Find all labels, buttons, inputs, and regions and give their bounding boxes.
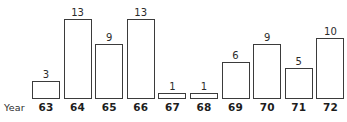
bar — [316, 38, 344, 100]
bar — [222, 62, 250, 99]
x-tick-label: 72 — [316, 101, 344, 113]
bar-value-label: 9 — [253, 32, 281, 43]
bar-group: 13 — [127, 19, 155, 99]
x-axis-title: Year — [4, 102, 25, 113]
bar — [32, 81, 60, 99]
bar-value-label: 9 — [95, 32, 123, 43]
bar-group: 1 — [190, 93, 218, 99]
bar — [190, 93, 218, 99]
plot-area: 363136496513661671686699705711072 — [0, 0, 347, 122]
bar — [158, 93, 186, 99]
bar-value-label: 13 — [64, 7, 92, 18]
x-tick-label: 69 — [222, 101, 250, 113]
bar — [64, 19, 92, 99]
bar-chart: 363136496513661671686699705711072 Year — [0, 0, 347, 122]
bar — [95, 44, 123, 99]
bar-group: 13 — [64, 19, 92, 99]
bar — [127, 19, 155, 99]
bar-value-label: 13 — [127, 7, 155, 18]
bar-value-label: 5 — [285, 56, 313, 67]
bar-value-label: 3 — [32, 69, 60, 80]
x-tick-label: 66 — [127, 101, 155, 113]
bar-group: 3 — [32, 81, 60, 99]
bar-group: 9 — [95, 44, 123, 99]
bar — [285, 68, 313, 99]
bar — [253, 44, 281, 99]
bar-group: 5 — [285, 68, 313, 99]
bar-group: 6 — [222, 62, 250, 99]
x-tick-label: 63 — [32, 101, 60, 113]
bar-value-label: 1 — [190, 81, 218, 92]
bar-value-label: 1 — [158, 81, 186, 92]
bar-group: 10 — [316, 38, 344, 100]
bar-value-label: 6 — [222, 50, 250, 61]
x-tick-label: 70 — [253, 101, 281, 113]
x-tick-label: 67 — [158, 101, 186, 113]
x-tick-label: 64 — [64, 101, 92, 113]
bar-value-label: 10 — [316, 26, 344, 37]
x-tick-label: 65 — [95, 101, 123, 113]
x-tick-label: 68 — [190, 101, 218, 113]
bar-group: 9 — [253, 44, 281, 99]
x-tick-label: 71 — [285, 101, 313, 113]
bar-group: 1 — [158, 93, 186, 99]
